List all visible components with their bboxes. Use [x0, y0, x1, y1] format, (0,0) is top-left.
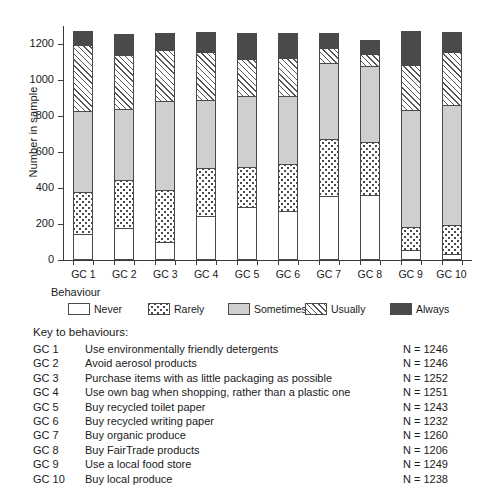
legend-item-rarely[interactable]: Rarely: [148, 302, 204, 316]
y-tick-label: 200: [10, 218, 54, 229]
x-tick-mark: [360, 261, 361, 265]
bar-segment-sometimes: [401, 110, 421, 227]
legend-item-always[interactable]: Always: [390, 302, 449, 316]
x-tick-mark: [380, 261, 381, 265]
bar-segment-sometimes: [155, 101, 175, 190]
bar-segment-never: [278, 211, 298, 260]
bar-segment-never: [401, 250, 421, 260]
bar-segment-usually: [155, 50, 175, 101]
stacked-bar-chart: Number in sample 020040060080010001200 G…: [0, 0, 491, 286]
x-tick-mark: [462, 261, 463, 265]
bar-segment-never: [319, 196, 339, 260]
bar-gc-1[interactable]: [73, 26, 93, 260]
bar-segment-rarely: [360, 142, 380, 195]
bar-segment-rarely: [155, 190, 175, 242]
bar-segment-rarely: [196, 168, 216, 216]
bar-segment-never: [442, 254, 462, 260]
key-row: GC 10Buy local produceN = 1238: [33, 473, 473, 487]
bar-gc-5[interactable]: [237, 26, 257, 260]
bar-segment-sometimes: [278, 96, 298, 164]
key-rows: GC 1Use environmentally friendly deterge…: [33, 343, 473, 487]
bar-segment-always: [360, 40, 380, 54]
key-row-description: Buy recycled toilet paper: [85, 401, 403, 413]
key-row-sample-size: N = 1246: [403, 343, 473, 355]
key-row-description: Buy organic produce: [85, 429, 403, 441]
legend-item-label: Rarely: [174, 303, 204, 315]
y-tick-label: 600: [10, 146, 54, 157]
x-tick-mark: [175, 261, 176, 265]
x-tick-label-gc-10: GC 10: [427, 268, 477, 280]
y-tick-label: 400: [10, 182, 54, 193]
legend: Behaviour NeverRarelySometimesUsuallyAlw…: [0, 286, 491, 322]
bar-gc-2[interactable]: [114, 26, 134, 260]
bar-gc-9[interactable]: [401, 26, 421, 260]
hatched-swatch: [305, 303, 327, 315]
key-row-code: GC 7: [33, 429, 85, 441]
bar-segment-rarely: [401, 227, 421, 250]
bar-segment-never: [155, 242, 175, 260]
bar-gc-7[interactable]: [319, 26, 339, 260]
key-row-code: GC 2: [33, 357, 85, 369]
key-row-code: GC 4: [33, 386, 85, 398]
legend-item-usually[interactable]: Usually: [305, 302, 365, 316]
legend-item-label: Always: [416, 303, 449, 315]
bar-segment-always: [237, 33, 257, 59]
x-tick-mark: [93, 261, 94, 265]
x-tick-mark: [442, 261, 443, 265]
key-row: GC 9Use a local food storeN = 1249: [33, 458, 473, 472]
key-row-code: GC 9: [33, 458, 85, 470]
bar-segment-sometimes: [114, 109, 134, 180]
bar-segment-sometimes: [319, 63, 339, 139]
key-row-description: Use own bag when shopping, rather than a…: [85, 386, 403, 398]
bar-segment-usually: [319, 48, 339, 63]
bar-segment-always: [442, 32, 462, 52]
legend-item-label: Usually: [331, 303, 365, 315]
key-row: GC 2Avoid aerosol productsN = 1246: [33, 357, 473, 371]
key-row-sample-size: N = 1232: [403, 415, 473, 427]
bar-gc-4[interactable]: [196, 26, 216, 260]
legend-item-never[interactable]: Never: [68, 302, 122, 316]
bar-gc-3[interactable]: [155, 26, 175, 260]
key-row-code: GC 5: [33, 401, 85, 413]
y-tick-label: 800: [10, 110, 54, 121]
key-row-code: GC 1: [33, 343, 85, 355]
bar-gc-10[interactable]: [442, 26, 462, 260]
bar-segment-usually: [401, 65, 421, 110]
key-row: GC 3Purchase items with as little packag…: [33, 372, 473, 386]
bar-segment-usually: [442, 52, 462, 105]
grey-swatch: [228, 303, 250, 315]
bars-container: [63, 26, 472, 260]
key-row-sample-size: N = 1251: [403, 386, 473, 398]
bar-segment-never: [360, 195, 380, 260]
dotted-swatch: [148, 303, 170, 315]
key-row: GC 4Use own bag when shopping, rather th…: [33, 386, 473, 400]
bar-gc-8[interactable]: [360, 26, 380, 260]
x-tick-mark: [73, 261, 74, 265]
bar-segment-usually: [278, 58, 298, 96]
y-tick-label: 1200: [10, 38, 54, 49]
key-row-sample-size: N = 1252: [403, 372, 473, 384]
bar-segment-always: [114, 34, 134, 55]
bar-segment-sometimes: [196, 100, 216, 168]
key-row-description: Purchase items with as little packaging …: [85, 372, 403, 384]
x-tick-mark: [237, 261, 238, 265]
legend-title: Behaviour: [51, 286, 101, 298]
key-row-code: GC 10: [33, 473, 85, 485]
x-tick-mark: [401, 261, 402, 265]
bar-segment-never: [196, 216, 216, 260]
bar-segment-usually: [360, 54, 380, 66]
chart-page: Number in sample 020040060080010001200 G…: [0, 0, 491, 498]
key-row-description: Buy FairTrade products: [85, 444, 403, 456]
key-row-description: Use a local food store: [85, 458, 403, 470]
x-tick-mark: [114, 261, 115, 265]
key-title: Key to behaviours:: [33, 326, 128, 338]
legend-item-label: Sometimes: [254, 303, 307, 315]
legend-item-sometimes[interactable]: Sometimes: [228, 302, 307, 316]
bar-segment-never: [73, 234, 93, 260]
white-swatch: [68, 303, 90, 315]
x-tick-mark: [298, 261, 299, 265]
bar-segment-usually: [237, 59, 257, 96]
bar-gc-6[interactable]: [278, 26, 298, 260]
x-tick-mark: [339, 261, 340, 265]
bar-segment-always: [155, 33, 175, 50]
